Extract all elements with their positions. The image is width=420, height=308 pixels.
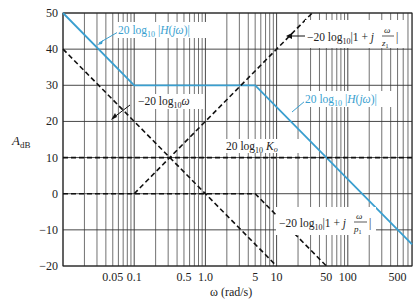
annotation-neg-omega: −20 log10ω <box>111 94 204 120</box>
x-tick-label: 0.5 <box>176 270 191 284</box>
svg-text:|: | <box>369 217 371 230</box>
y-tick-label: 10 <box>46 151 58 165</box>
x-tick-label: 10 <box>271 270 283 284</box>
x-tick-label: 1.0 <box>198 270 213 284</box>
annotation-h-right: 20 log10 |H(jω)| <box>292 91 396 112</box>
x-tick-label: 5 <box>252 270 258 284</box>
y-tick-label: −10 <box>39 223 58 237</box>
x-axis-label: ω (rad/s) <box>210 285 252 299</box>
y-tick-label: 50 <box>46 6 58 20</box>
y-tick-label: −20 <box>39 259 58 273</box>
y-tick-label: 30 <box>46 78 58 92</box>
y-tick-labels: 50403020100−10−20 <box>39 6 58 273</box>
annotation-pole: −20 log10|1 + j ω p1 | <box>276 207 376 235</box>
y-tick-label: 40 <box>46 42 58 56</box>
y-axis-label: AdB <box>11 133 30 150</box>
y-tick-label: 0 <box>52 187 58 201</box>
x-tick-label: 0.05 <box>102 270 123 284</box>
x-tick-label: 50 <box>320 270 332 284</box>
svg-text:ω: ω <box>384 25 390 35</box>
annotation-h-top: 20 log10 |H(jω)| <box>97 22 209 45</box>
x-tick-label: 100 <box>339 270 357 284</box>
svg-text:ω: ω <box>356 211 362 221</box>
bode-plot: 50403020100−10−20 0.050.10.51.0510501005… <box>0 0 420 308</box>
x-tick-labels: 0.050.10.51.051050100500 <box>102 270 406 284</box>
annotation-zero: −20 log10|1 + j ω z1 | <box>286 20 405 49</box>
y-tick-label: 20 <box>46 114 58 128</box>
x-tick-label: 500 <box>389 270 407 284</box>
x-tick-label: 0.1 <box>127 270 142 284</box>
annotation-ko: 20 log10 Ko <box>224 139 299 155</box>
svg-text:|: | <box>396 31 398 44</box>
